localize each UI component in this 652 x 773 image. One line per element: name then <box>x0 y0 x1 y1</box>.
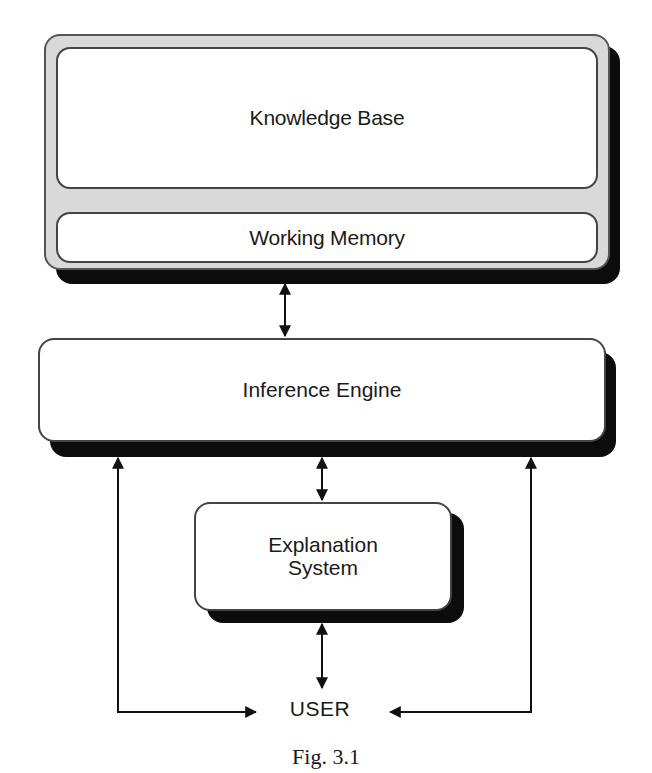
user-label: USER <box>270 697 370 727</box>
working-memory-box: Working Memory <box>56 212 598 263</box>
explanation-system-label-line2: System <box>288 557 358 579</box>
knowledge-base-box: Knowledge Base <box>56 47 598 189</box>
explanation-system-box: Explanation System <box>194 502 452 611</box>
inference-engine-label: Inference Engine <box>243 378 402 402</box>
knowledge-base-label: Knowledge Base <box>250 106 405 130</box>
explanation-system-label-line1: Explanation <box>268 534 378 556</box>
figure-caption: Fig. 3.1 <box>226 744 426 773</box>
working-memory-label: Working Memory <box>249 226 405 250</box>
inference-engine-box: Inference Engine <box>38 338 606 442</box>
